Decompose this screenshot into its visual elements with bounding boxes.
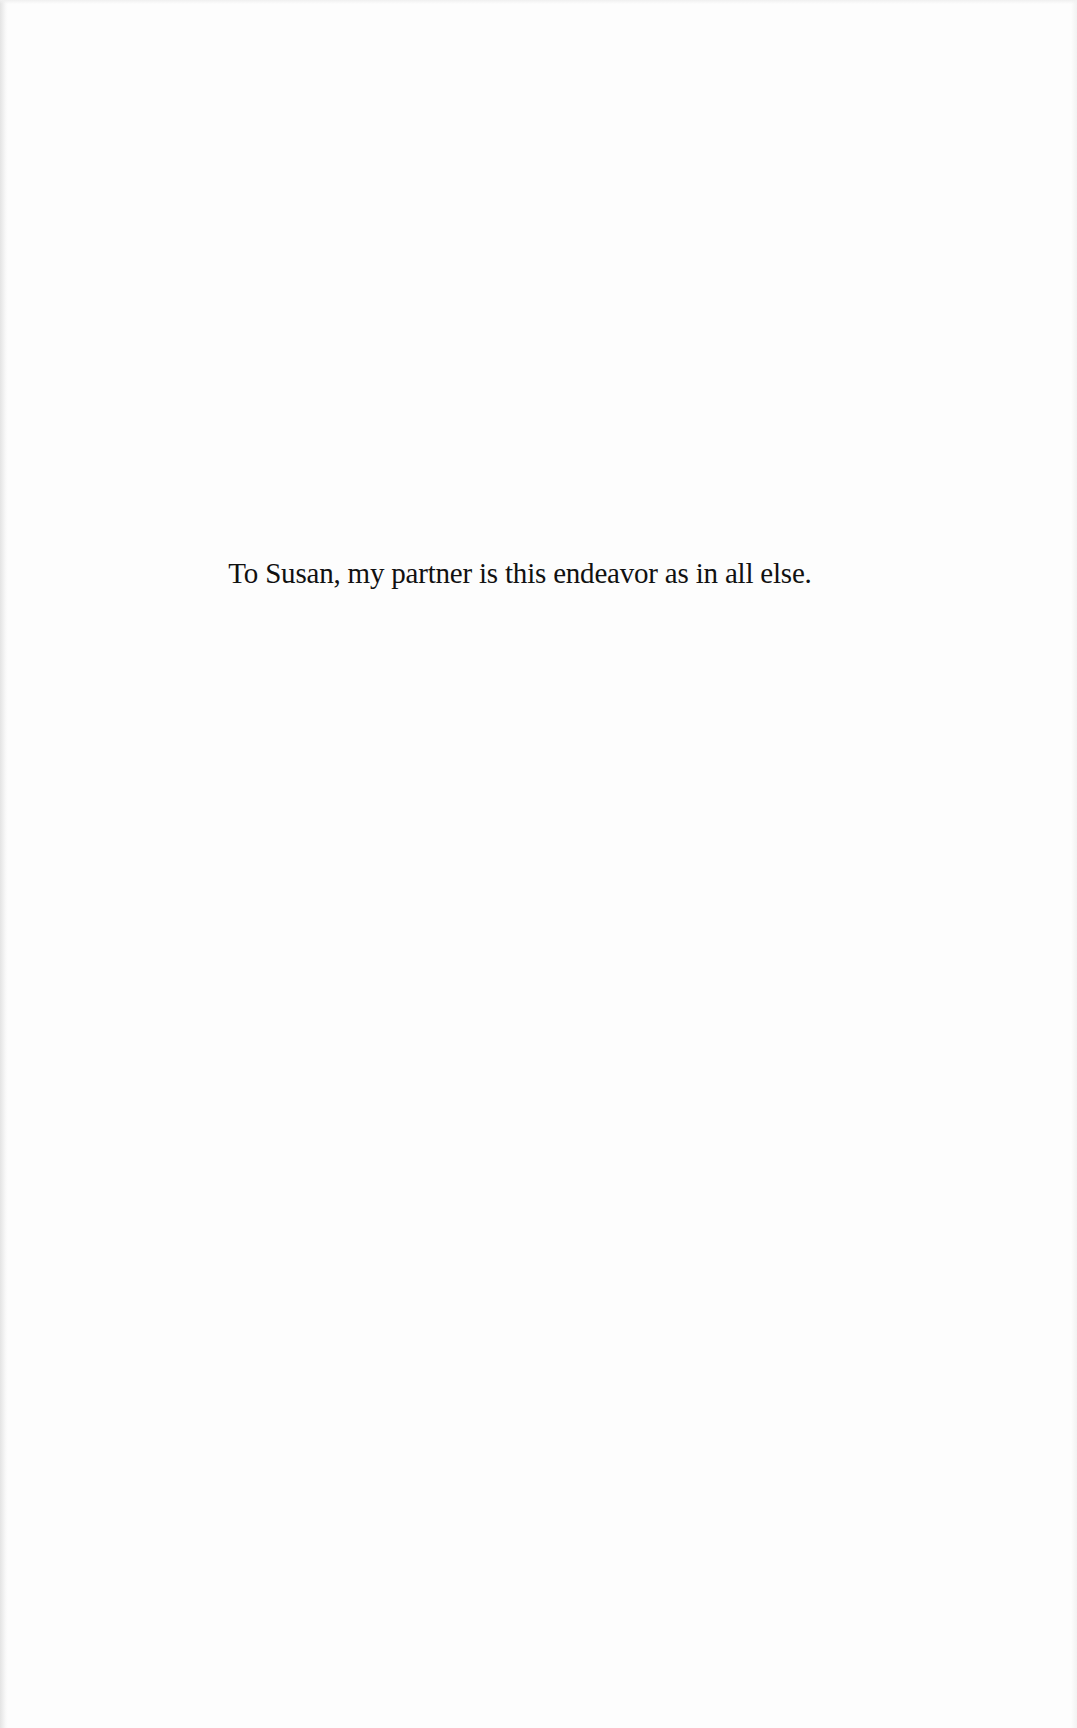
page-top-edge-shadow (0, 0, 1077, 4)
dedication-text: To Susan, my partner is this endeavor as… (0, 556, 1040, 590)
book-page: To Susan, my partner is this endeavor as… (0, 0, 1077, 1728)
page-right-edge-shadow (1071, 0, 1077, 1728)
page-left-edge-shadow (0, 0, 8, 1728)
